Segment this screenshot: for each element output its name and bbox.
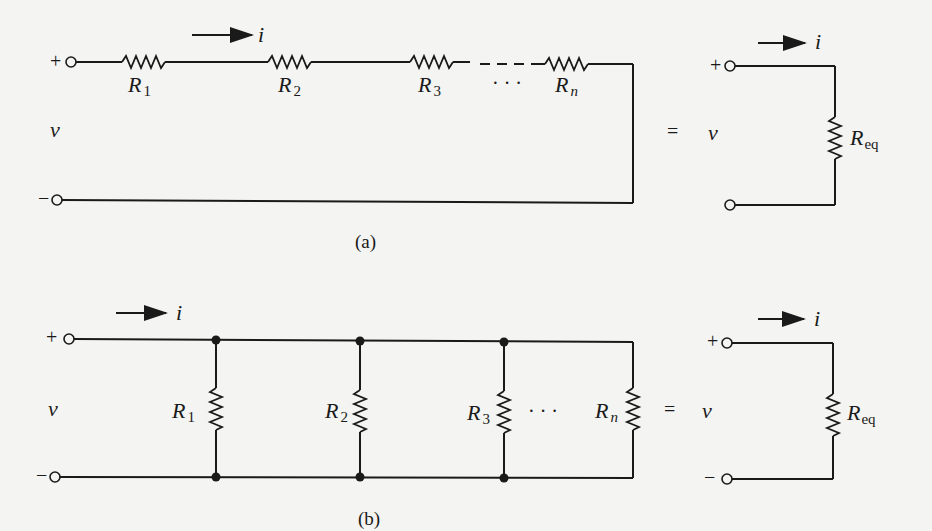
negative-terminal bbox=[722, 474, 732, 484]
plus-sign: + bbox=[50, 50, 61, 72]
current-label: i bbox=[176, 300, 182, 325]
current-label: i bbox=[258, 22, 264, 47]
r3-label: R3 bbox=[417, 72, 441, 99]
resistor-rn-icon bbox=[627, 388, 639, 430]
series-equivalent-circuit: i + v Req bbox=[708, 29, 879, 210]
rn-label: Rn bbox=[554, 72, 578, 99]
branch-r1: R1 bbox=[171, 336, 222, 482]
negative-terminal bbox=[50, 472, 60, 482]
series-circuit: i + − R1 R2 R3 · · · Rn v = i + bbox=[38, 22, 879, 253]
current-label: i bbox=[815, 29, 821, 54]
voltage-label: v bbox=[50, 117, 60, 142]
branch-r2: R2 bbox=[324, 337, 366, 482]
parallel-circuit: i + − R1 R2 bbox=[36, 300, 876, 530]
minus-sign: − bbox=[38, 187, 49, 209]
positive-terminal bbox=[722, 338, 732, 348]
resistor-r3-icon bbox=[498, 391, 510, 433]
resistor-r1-icon bbox=[122, 56, 165, 68]
positive-terminal bbox=[64, 334, 74, 344]
resistor-rn-icon bbox=[545, 58, 588, 70]
r1-label: R1 bbox=[127, 72, 151, 99]
equals-sign: = bbox=[664, 398, 675, 420]
minus-sign: − bbox=[36, 464, 47, 486]
branch-r3: R3 bbox=[466, 338, 510, 483]
req-label: Req bbox=[846, 400, 876, 427]
caption-a: (a) bbox=[355, 231, 376, 253]
resistor-r1-icon bbox=[210, 388, 222, 430]
ellipsis: · · · bbox=[528, 400, 558, 422]
rn-label: Rn bbox=[594, 398, 618, 425]
resistor-r2-icon bbox=[354, 390, 366, 432]
r2-label: R2 bbox=[324, 398, 348, 425]
junction-node bbox=[500, 474, 509, 483]
caption-b: (b) bbox=[358, 508, 380, 530]
resistor-r3-icon bbox=[410, 56, 453, 68]
req-label: Req bbox=[849, 125, 879, 152]
circuit-figure: i + − R1 R2 R3 · · · Rn v = i + bbox=[0, 0, 932, 531]
plus-sign: + bbox=[710, 54, 721, 76]
negative-terminal bbox=[52, 195, 62, 205]
resistor-req-icon bbox=[827, 394, 839, 436]
parallel-equivalent-circuit: i + − v Req bbox=[702, 306, 876, 488]
minus-sign: − bbox=[704, 466, 715, 488]
r1-label: R1 bbox=[171, 398, 195, 425]
equals-sign: = bbox=[667, 120, 678, 142]
positive-terminal bbox=[725, 61, 735, 71]
r2-label: R2 bbox=[277, 72, 301, 99]
junction-node bbox=[212, 473, 221, 482]
positive-terminal bbox=[66, 57, 76, 67]
plus-sign: + bbox=[46, 326, 57, 348]
ellipsis: · · · bbox=[492, 72, 522, 94]
voltage-label: v bbox=[48, 396, 58, 421]
junction-node bbox=[356, 473, 365, 482]
r3-label: R3 bbox=[466, 400, 490, 427]
plus-sign: + bbox=[707, 330, 718, 352]
current-label: i bbox=[814, 306, 820, 331]
resistor-req-icon bbox=[829, 117, 841, 159]
resistor-r2-icon bbox=[268, 56, 311, 68]
branch-rn: Rn bbox=[594, 388, 639, 478]
voltage-label: v bbox=[702, 398, 712, 423]
negative-terminal bbox=[725, 200, 735, 210]
voltage-label: v bbox=[708, 120, 718, 145]
